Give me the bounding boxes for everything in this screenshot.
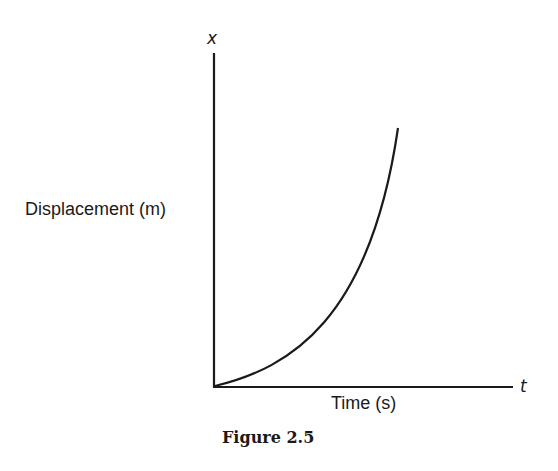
x-axis-symbol: t — [520, 376, 527, 396]
displacement-curve — [215, 128, 398, 386]
y-axis-symbol: x — [207, 28, 217, 48]
figure-caption: Figure 2.5 — [222, 428, 314, 447]
graph-canvas — [0, 0, 558, 471]
displacement-time-figure: x Displacement (m) t Time (s) Figure 2.5 — [0, 0, 558, 471]
y-axis-label: Displacement (m) — [25, 199, 166, 220]
x-axis-label: Time (s) — [331, 393, 396, 414]
